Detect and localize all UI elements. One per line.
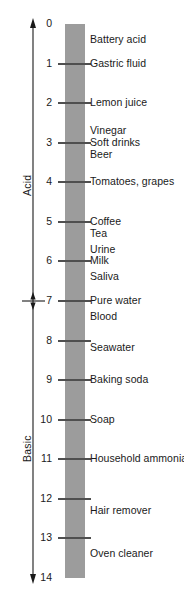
substance-label: Battery acid bbox=[90, 33, 146, 45]
substance-label: Gastric fluid bbox=[90, 57, 146, 69]
ph-tick-label-12: 12 bbox=[0, 492, 52, 504]
ph-tick-label-3: 3 bbox=[0, 136, 52, 148]
ph-tick-13 bbox=[58, 537, 91, 539]
ph-tick-8 bbox=[58, 340, 91, 342]
ph-tick-label-6: 6 bbox=[0, 254, 52, 266]
substance-label: Oven cleaner bbox=[90, 547, 153, 559]
substance-label: Blood bbox=[90, 310, 117, 322]
ph-tick-7 bbox=[58, 300, 91, 302]
ph-tick-6 bbox=[58, 260, 91, 262]
ph-tick-label-14: 14 bbox=[0, 571, 52, 583]
ph-tick-5 bbox=[58, 221, 91, 223]
ph-tick-label-4: 4 bbox=[0, 175, 52, 187]
ph-tick-label-11: 11 bbox=[0, 452, 52, 464]
ph-tick-label-13: 13 bbox=[0, 531, 52, 543]
substance-label: Pure water bbox=[90, 294, 141, 306]
ph-scale-figure: Acid Basic 01234567891011121314 Battery … bbox=[0, 0, 184, 604]
ph-tick-0 bbox=[58, 23, 91, 25]
substance-label: Tomatoes, grapes bbox=[90, 175, 174, 187]
substance-label: Milk bbox=[90, 254, 109, 266]
ph-tick-label-1: 1 bbox=[0, 57, 52, 69]
ph-tick-label-8: 8 bbox=[0, 334, 52, 346]
ph-tick-label-2: 2 bbox=[0, 96, 52, 108]
substance-label: Urine bbox=[90, 243, 115, 255]
substance-label: Soap bbox=[90, 413, 115, 425]
ph-tick-label-10: 10 bbox=[0, 413, 52, 425]
substance-label: Tea bbox=[90, 227, 107, 239]
ph-tick-label-7: 7 bbox=[0, 294, 52, 306]
ph-tick-12 bbox=[58, 498, 91, 500]
substance-label: Beer bbox=[90, 148, 112, 160]
ph-tick-11 bbox=[58, 458, 91, 460]
substance-label: Vinegar bbox=[90, 124, 126, 136]
ph-tick-9 bbox=[58, 379, 91, 381]
ph-tick-4 bbox=[58, 181, 91, 183]
substance-label: Household ammonia bbox=[90, 452, 184, 464]
substance-label: Soft drinks bbox=[90, 136, 140, 148]
ph-tick-10 bbox=[58, 419, 91, 421]
ph-tick-1 bbox=[58, 63, 91, 65]
substance-label: Seawater bbox=[90, 341, 135, 353]
ph-tick-label-0: 0 bbox=[0, 17, 52, 29]
substance-label: Lemon juice bbox=[90, 96, 147, 108]
substance-label: Saliva bbox=[90, 270, 119, 282]
substance-label: Baking soda bbox=[90, 373, 148, 385]
ph-tick-2 bbox=[58, 102, 91, 104]
ph-tick-14 bbox=[58, 577, 91, 579]
substance-label: Coffee bbox=[90, 215, 121, 227]
ph-tick-3 bbox=[58, 142, 91, 144]
substance-label: Hair remover bbox=[90, 504, 151, 516]
ph-tick-label-9: 9 bbox=[0, 373, 52, 385]
ph-tick-label-5: 5 bbox=[0, 215, 52, 227]
